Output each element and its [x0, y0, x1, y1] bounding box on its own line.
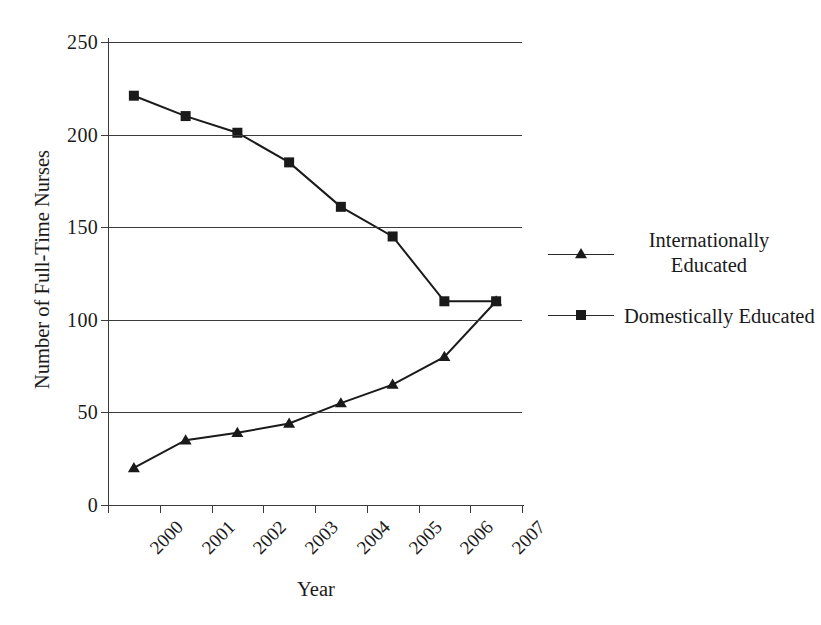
x-axis-tick-label: 2004 [353, 517, 393, 557]
y-axis-tick-label: 250 [38, 32, 98, 52]
data-point-marker [232, 128, 242, 138]
line-chart: 050100150200250 Number of Full-Time Nurs… [0, 0, 821, 625]
x-axis-tick-label: 2000 [146, 517, 186, 557]
legend-marker-glyph [548, 244, 614, 266]
y-axis-tick [101, 227, 109, 228]
y-axis-tick-label: 0 [38, 495, 98, 515]
x-axis-tick [108, 505, 109, 513]
legend-marker-square-icon [548, 305, 614, 327]
x-axis-tick-label: 2006 [457, 517, 497, 557]
legend-marker-triangle-icon [548, 244, 614, 266]
x-axis-tick [160, 505, 161, 513]
x-axis-tick [263, 505, 264, 513]
series-1 [128, 295, 502, 472]
data-point-marker [439, 296, 449, 306]
y-axis-tick [101, 42, 109, 43]
data-point-marker [388, 231, 398, 241]
series-line [134, 96, 496, 302]
x-axis-tick [470, 505, 471, 513]
series-layer [108, 42, 522, 505]
gridline [108, 412, 522, 413]
gridline [108, 320, 522, 321]
x-axis-tick-label: 2002 [250, 517, 290, 557]
y-axis-tick [101, 412, 109, 413]
gridline [108, 135, 522, 136]
x-axis-title: Year [108, 578, 524, 601]
data-point-marker [284, 157, 294, 167]
data-point-marker [336, 202, 346, 212]
x-axis-line [108, 505, 524, 506]
legend-marker-glyph [548, 305, 614, 327]
y-axis-title: Number of Full-Time Nurses [31, 110, 54, 430]
x-axis-tick [367, 505, 368, 513]
x-axis-tick [212, 505, 213, 513]
legend-label: Internationally Educated [614, 228, 794, 278]
data-point-marker [129, 91, 139, 101]
data-point-marker [387, 379, 399, 389]
x-axis-tick [315, 505, 316, 513]
series-2 [129, 91, 501, 307]
legend-item[interactable]: Domestically Educated [548, 304, 816, 329]
x-axis-tick-label: 2003 [301, 517, 341, 557]
chart-legend: Internationally EducatedDomestically Edu… [548, 228, 816, 355]
x-axis-tick-label: 2005 [405, 517, 445, 557]
x-axis-tick [419, 505, 420, 513]
plot-area [108, 42, 522, 505]
y-axis-tick [101, 320, 109, 321]
x-axis-tick [522, 505, 523, 513]
data-point-marker [491, 296, 501, 306]
legend-item[interactable]: Internationally Educated [548, 228, 816, 278]
legend-label: Domestically Educated [614, 304, 815, 329]
gridline [108, 42, 522, 43]
x-axis-tick-label: 2001 [198, 517, 238, 557]
data-point-marker [128, 462, 140, 472]
gridline [108, 227, 522, 228]
x-axis-tick-label: 2007 [508, 517, 548, 557]
data-point-marker [181, 111, 191, 121]
y-axis-tick [101, 135, 109, 136]
